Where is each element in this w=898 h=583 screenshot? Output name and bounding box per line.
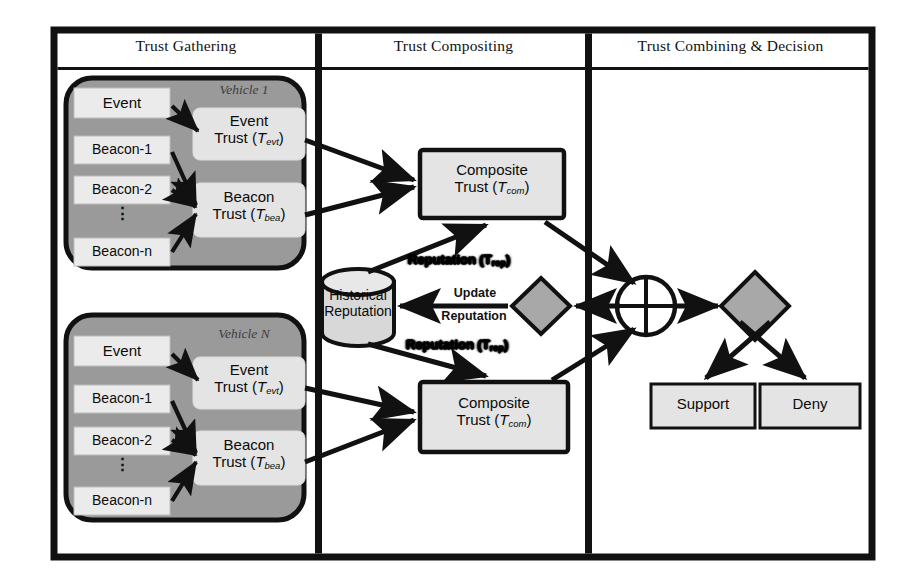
input-box-beacon-2	[74, 176, 170, 204]
input-box-event	[74, 336, 170, 366]
input-box-event	[74, 88, 170, 118]
event-trust-box-1	[193, 108, 305, 160]
composite-trust-box-1	[420, 150, 564, 218]
beacon-trust-box-n	[193, 431, 305, 485]
deny-box	[760, 384, 860, 428]
event-trust-box-n	[193, 357, 305, 409]
trust-combining-sum	[614, 275, 678, 337]
framework-diagram	[0, 0, 898, 583]
input-box-beacon-1	[74, 385, 170, 413]
diagram-canvas: Trust Gathering Trust Compositing Trust …	[0, 0, 898, 583]
support-box	[651, 384, 755, 428]
input-box-beacon-2	[74, 427, 170, 455]
input-box-beacon-1	[74, 136, 170, 164]
historical-reputation-db	[322, 269, 394, 346]
composite-trust-box-2	[420, 382, 568, 452]
input-box-beacon-n	[74, 487, 170, 515]
input-box-beacon-n	[74, 238, 170, 266]
beacon-trust-box-1	[193, 183, 305, 237]
